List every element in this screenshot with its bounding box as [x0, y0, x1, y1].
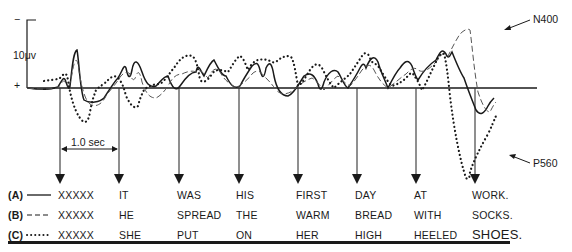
- word: SHOES.: [472, 227, 522, 242]
- word: HEELED: [414, 229, 457, 241]
- word: WITH: [414, 209, 442, 221]
- word: THE: [236, 209, 258, 221]
- word: HIS: [236, 189, 254, 201]
- annotation-arrows: [504, 20, 530, 163]
- n400-label: N400: [533, 13, 558, 25]
- word: XXXXX: [58, 229, 94, 241]
- word: WARM: [296, 209, 330, 221]
- scale-minus-label: −: [14, 13, 20, 25]
- word: AT: [414, 189, 427, 201]
- row-tag: (A): [8, 189, 23, 201]
- word: SPREAD: [177, 209, 221, 221]
- series-b-dashed-line: [28, 29, 496, 112]
- word-onset-arrows: [55, 88, 480, 184]
- word: IT: [119, 189, 129, 201]
- scale-amplitude-label: 10μv: [13, 49, 36, 61]
- word: HE: [119, 209, 134, 221]
- scale-plus-label: +: [14, 79, 20, 91]
- series-c-dotted-line: [44, 53, 496, 179]
- word: ON: [236, 229, 252, 241]
- word: WAS: [177, 189, 201, 201]
- bottom-rule: [8, 241, 510, 244]
- word: XXXXX: [58, 189, 94, 201]
- word: HIGH: [355, 229, 382, 241]
- word: FIRST: [296, 189, 327, 201]
- word: SOCKS.: [472, 209, 513, 221]
- row-tag: (C): [8, 229, 23, 241]
- time-scale-label: 1.0 sec: [71, 136, 105, 148]
- word: BREAD: [355, 209, 392, 221]
- word: DAY: [355, 189, 376, 201]
- legend-line-samples: [27, 195, 51, 235]
- word: XXXXX: [58, 209, 94, 221]
- word: SHE: [119, 229, 141, 241]
- word: HER: [296, 229, 319, 241]
- p560-label: P560: [533, 157, 558, 169]
- word: WORK.: [472, 189, 509, 201]
- row-tag: (B): [8, 209, 23, 221]
- word: PUT: [177, 229, 199, 241]
